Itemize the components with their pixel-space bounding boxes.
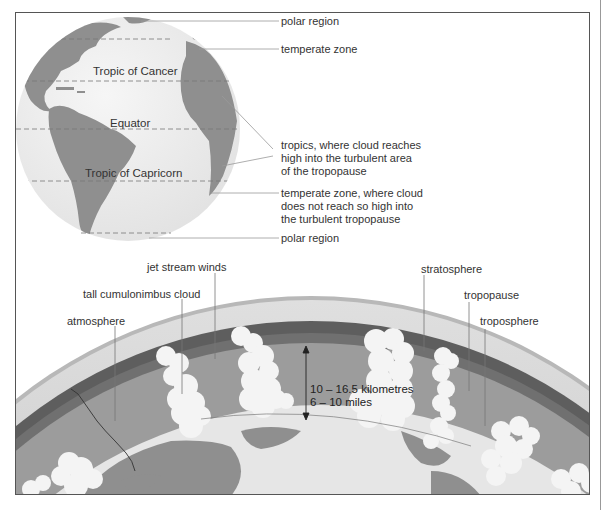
- callout-temperate-zone-bottom: temperate zone, where cloud does not rea…: [281, 187, 423, 226]
- callout-temperate-zone-top: temperate zone: [281, 43, 357, 56]
- label-jet-stream-winds: jet stream winds: [147, 261, 226, 274]
- label-atmosphere: atmosphere: [67, 315, 125, 328]
- callout-tropics: tropics, where cloud reaches high into t…: [281, 139, 421, 178]
- callout-temperate-line-2: does not reach so high into: [281, 200, 423, 213]
- label-equator: Equator: [110, 117, 150, 129]
- height-miles-label: 6 – 10 miles: [310, 396, 372, 409]
- label-troposphere: troposphere: [480, 315, 539, 328]
- label-tropopause: tropopause: [464, 289, 519, 302]
- label-tropic-of-capricorn: Tropic of Capricorn: [85, 167, 182, 179]
- callout-temperate-line-3: the turbulent tropopause: [281, 213, 423, 226]
- label-tropic-of-cancer: Tropic of Cancer: [93, 65, 178, 77]
- page-edge-divider: [600, 0, 601, 510]
- diagram-frame: Tropic of Cancer Equator Tropic of Capri…: [15, 12, 590, 495]
- callout-temperate-line-1: temperate zone, where cloud: [281, 187, 423, 200]
- globe-illustration: [16, 13, 590, 495]
- callout-polar-region-top: polar region: [281, 15, 339, 28]
- callout-polar-region-bottom: polar region: [281, 232, 339, 245]
- callout-tropics-line-3: of the tropopause: [281, 165, 421, 178]
- height-km-label: 10 – 16.5 kilometres: [310, 383, 414, 396]
- label-tall-cumulonimbus-cloud: tall cumulonimbus cloud: [83, 288, 200, 301]
- callout-tropics-line-1: tropics, where cloud reaches: [281, 139, 421, 152]
- label-stratosphere: stratosphere: [421, 263, 482, 276]
- callout-tropics-line-2: high into the turbulent area: [281, 152, 421, 165]
